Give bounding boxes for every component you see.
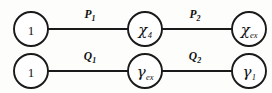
node-circle-top-n3[interactable] — [232, 12, 266, 46]
node-circle-bot-n2[interactable] — [128, 54, 162, 88]
node-circle-top-n2[interactable] — [128, 12, 162, 46]
diagram-graphics — [0, 0, 272, 93]
node-circle-top-n1[interactable] — [14, 12, 48, 46]
node-circle-bot-n1[interactable] — [14, 54, 48, 88]
nodes-layer — [14, 12, 266, 88]
diagram-canvas: P1P21χ4χexQ1Q21γexγ1 — [0, 0, 272, 93]
node-circle-bot-n3[interactable] — [232, 54, 266, 88]
